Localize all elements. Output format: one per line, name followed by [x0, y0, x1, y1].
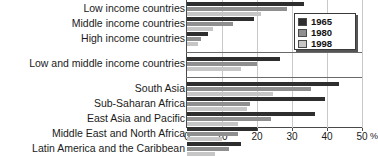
- panel-separator: [186, 52, 362, 53]
- category-label: Middle income countries: [72, 18, 185, 29]
- legend-label-1965: 1965: [311, 17, 332, 27]
- bar: [187, 12, 261, 16]
- bar: [187, 62, 257, 66]
- bar: [187, 142, 241, 146]
- category-label: Low income countries: [83, 3, 185, 14]
- category-label: High income countries: [81, 33, 185, 44]
- legend-item: 1998: [298, 38, 352, 49]
- legend-swatch-1998: [298, 40, 307, 48]
- bar: [187, 82, 339, 86]
- legend-item: 1980: [298, 27, 352, 38]
- bar: [187, 117, 271, 121]
- bar: [187, 87, 311, 91]
- gridline: [362, 0, 363, 128]
- bar: [187, 42, 198, 46]
- panel-separator: [186, 77, 362, 78]
- gridline: [292, 0, 293, 128]
- bar: [187, 17, 254, 21]
- bar: [187, 152, 215, 156]
- category-label: Middle East and North Africa: [52, 128, 185, 139]
- category-label: Latin America and the Caribbean: [32, 143, 185, 154]
- category-label: East Asia and Pacific: [87, 113, 185, 124]
- bar: [187, 107, 247, 111]
- bar: [187, 22, 233, 26]
- legend: 1965 1980 1998: [294, 13, 356, 50]
- bar: [187, 37, 201, 41]
- category-label: Sub-Saharan Africa: [94, 98, 185, 109]
- gridline: [257, 0, 258, 128]
- x-tick-label: 20: [251, 131, 262, 142]
- category-label: Low and middle income countries: [29, 58, 185, 69]
- bar: [187, 127, 257, 131]
- legend-label-1998: 1998: [311, 39, 332, 49]
- legend-swatch-1980: [298, 29, 307, 37]
- bar: [187, 132, 238, 136]
- bar: [187, 122, 238, 126]
- legend-swatch-1965: [298, 18, 307, 26]
- bar: [187, 137, 222, 141]
- bar: [187, 112, 315, 116]
- bar: [187, 102, 250, 106]
- legend-item: 1965: [298, 16, 352, 27]
- bar: [187, 32, 208, 36]
- axis-unit-label: %: [370, 131, 378, 141]
- bar: [187, 97, 325, 101]
- x-tick-label: 50: [356, 131, 367, 142]
- bar: [187, 2, 304, 6]
- bar: [187, 7, 287, 11]
- bar: [187, 147, 229, 151]
- x-tick-label: 40: [321, 131, 332, 142]
- category-label: South Asia: [135, 83, 185, 94]
- bar: [187, 92, 273, 96]
- bar: [187, 67, 241, 71]
- legend-label-1980: 1980: [311, 28, 332, 38]
- bar: [187, 57, 280, 61]
- x-tick-label: 30: [286, 131, 297, 142]
- bar: [187, 27, 213, 31]
